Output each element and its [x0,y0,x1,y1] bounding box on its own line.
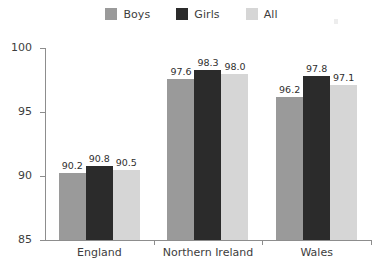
legend-label-all: All [264,9,278,20]
bar-group-bars: 90.290.890.5 [59,48,140,240]
y-axis-tick-label: 95 [18,105,32,118]
bar-value-label: 90.2 [62,160,83,171]
bar-all-wales[interactable]: 97.1 [330,85,357,240]
bar-girls-england[interactable]: 90.8 [86,166,113,240]
bar-boys-northern-ireland[interactable]: 97.6 [167,79,194,240]
bar-value-label: 97.8 [306,63,327,74]
y-axis-tick-label: 85 [18,233,32,246]
x-axis-category-label: England [77,246,122,259]
bar-group: 96.297.897.1Wales [262,48,371,240]
x-axis-tick [154,240,155,245]
y-axis-tick-label: 100 [11,41,32,54]
x-axis-tick [371,240,372,245]
bar-value-label: 98.0 [224,61,245,72]
bar-chart: Boys Girls All 859095100 90.290.890.5Eng… [0,0,383,268]
bar-value-label: 97.6 [170,66,191,77]
bar-all-northern-ireland[interactable]: 98.0 [221,74,248,240]
bar-value-label: 96.2 [279,84,300,95]
bar-girls-wales[interactable]: 97.8 [303,76,330,240]
y-axis-tick: 85 [40,240,45,241]
legend-swatch-girls [176,8,188,20]
chart-legend: Boys Girls All [0,8,383,20]
bar-boys-england[interactable]: 90.2 [59,173,86,240]
x-axis-category-label: Wales [300,246,332,259]
legend-swatch-all [246,8,258,20]
bar-group-bars: 97.698.398.0 [167,48,248,240]
legend-item-all: All [246,8,278,20]
bar-all-england[interactable]: 90.5 [113,170,140,240]
x-axis-tick [262,240,263,245]
bar-value-label: 97.1 [333,72,354,83]
bar-value-label: 98.3 [197,57,218,68]
bar-group: 90.290.890.5England [45,48,154,240]
bar-value-label: 90.5 [116,157,137,168]
scan-artifact [334,19,338,24]
y-axis-tick-label: 90 [18,169,32,182]
bar-value-label: 90.8 [89,153,110,164]
bar-group-bars: 96.297.897.1 [276,48,357,240]
legend-item-girls: Girls [176,8,219,20]
legend-label-girls: Girls [194,9,219,20]
bar-group: 97.698.398.0Northern Ireland [154,48,263,240]
bar-boys-wales[interactable]: 96.2 [276,97,303,240]
legend-swatch-boys [105,8,117,20]
x-axis-category-label: Northern Ireland [163,246,253,259]
legend-label-boys: Boys [123,9,150,20]
plot-area: 859095100 90.290.890.5England97.698.398.… [45,48,371,240]
x-axis-line [45,240,371,241]
legend-item-boys: Boys [105,8,150,20]
bar-girls-northern-ireland[interactable]: 98.3 [194,70,221,240]
